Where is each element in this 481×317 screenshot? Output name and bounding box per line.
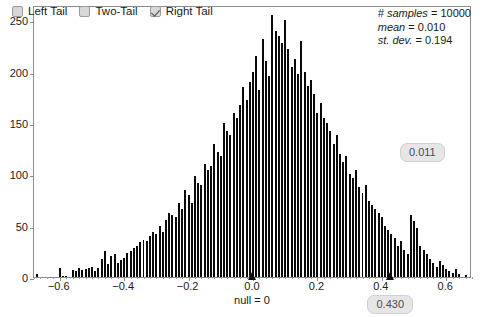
histogram-bar	[304, 72, 306, 277]
histogram-bar	[197, 183, 199, 277]
histogram-bar	[374, 209, 376, 277]
histogram-bar	[130, 251, 132, 277]
legend-item-two-tail[interactable]: Two-Tail	[79, 6, 137, 18]
histogram-bar	[171, 215, 173, 277]
histogram-bar	[381, 217, 383, 277]
x-tick-label: −0.6	[48, 281, 70, 292]
x-minor-tick	[311, 277, 312, 279]
stats-panel: # samples = 10000 mean = 0.010 st. dev. …	[378, 7, 471, 48]
x-minor-tick	[363, 277, 364, 279]
histogram-bar	[345, 156, 347, 277]
y-tick-mark	[30, 279, 34, 280]
histogram-bar	[287, 49, 289, 277]
histogram-bar	[284, 20, 286, 277]
histogram-bar	[339, 154, 341, 277]
x-minor-tick	[324, 277, 325, 279]
x-minor-tick	[305, 277, 306, 279]
y-tick-label: 0	[22, 273, 28, 284]
histogram-bar	[358, 187, 360, 277]
x-minor-tick	[298, 277, 299, 279]
legend-item-left-tail[interactable]: Left Tail	[12, 6, 67, 18]
x-tick-label: 0.2	[309, 281, 324, 292]
x-tick-label: 0.4	[373, 281, 388, 292]
histogram-bar	[326, 123, 328, 277]
histogram-bar	[88, 268, 90, 277]
histogram-bar	[281, 43, 283, 277]
stat-mean-value: = 0.010	[408, 21, 445, 33]
null-marker-icon	[248, 272, 256, 280]
histogram-bar	[75, 271, 77, 277]
x-minor-tick	[337, 277, 338, 279]
x-tick-label: −0.2	[177, 281, 199, 292]
legend-item-right-tail[interactable]: Right Tail	[150, 6, 213, 18]
y-tick-label: 50	[16, 221, 28, 232]
x-minor-tick	[131, 277, 132, 279]
stat-stdev-key: st. dev.	[378, 34, 413, 46]
x-minor-tick	[266, 277, 267, 279]
histogram-bar	[181, 209, 183, 277]
histogram-bar	[291, 67, 293, 277]
histogram-bar	[239, 105, 241, 277]
y-tick-mark	[30, 228, 34, 229]
stat-samples-key: # samples	[378, 7, 428, 19]
histogram-bar	[365, 185, 367, 277]
histogram-bar	[320, 103, 322, 277]
checkbox-unchecked-icon[interactable]	[79, 6, 90, 17]
x-minor-tick	[40, 277, 41, 279]
histogram-bar	[226, 131, 228, 277]
histogram-bar	[207, 170, 209, 277]
histogram-bar	[378, 213, 380, 277]
legend-label: Left Tail	[28, 6, 67, 18]
legend-label: Two-Tail	[95, 6, 137, 18]
statistic-marker-icon	[386, 272, 394, 280]
histogram-bar	[252, 72, 254, 277]
y-tick-mark	[30, 22, 34, 23]
y-tick-label: 200	[10, 67, 28, 78]
histogram-bar	[352, 178, 354, 277]
histogram-bar	[175, 217, 177, 277]
histogram-bar	[355, 170, 357, 277]
x-minor-tick	[433, 277, 434, 279]
stat-stdev-value: = 0.194	[415, 34, 452, 46]
histogram-bar	[143, 240, 145, 277]
stat-stdev: st. dev. = 0.194	[378, 34, 471, 48]
histogram-bar	[342, 162, 344, 277]
x-minor-tick	[330, 277, 331, 279]
histogram-bar	[162, 232, 164, 277]
x-minor-tick	[279, 277, 280, 279]
histogram-bar	[159, 226, 161, 277]
y-tick-label: 250	[10, 16, 28, 27]
histogram-bar	[426, 254, 428, 277]
checkbox-checked-icon[interactable]	[150, 6, 161, 17]
x-minor-tick	[401, 277, 402, 279]
histogram-bar	[397, 246, 399, 277]
histogram-bar	[136, 246, 138, 277]
histogram-bar	[413, 221, 415, 277]
histogram-bar	[36, 274, 38, 277]
x-minor-tick	[375, 277, 376, 279]
histogram-bar	[178, 203, 180, 277]
histogram-bar	[155, 234, 157, 277]
histogram-bar	[223, 123, 225, 277]
histogram-bar	[429, 259, 431, 277]
histogram-bar	[307, 86, 309, 277]
histogram-bar	[165, 220, 167, 277]
histogram-bar	[133, 248, 135, 277]
histogram-bar	[297, 74, 299, 277]
x-minor-tick	[47, 277, 48, 279]
histogram-bar	[349, 174, 351, 277]
histogram-bar	[439, 261, 441, 277]
checkbox-unchecked-icon[interactable]	[12, 6, 23, 17]
y-tick-label: 150	[10, 119, 28, 130]
x-minor-tick	[356, 277, 357, 279]
x-minor-tick	[208, 277, 209, 279]
histogram-bar	[371, 205, 373, 277]
stat-samples-value: = 10000	[431, 7, 471, 19]
x-minor-tick	[79, 277, 80, 279]
x-minor-tick	[466, 277, 467, 279]
histogram-bar	[120, 260, 122, 277]
histogram-bar	[220, 156, 222, 277]
histogram-bar	[448, 271, 450, 277]
x-minor-tick	[343, 277, 344, 279]
null-hypothesis-label: null = 0	[234, 294, 270, 306]
